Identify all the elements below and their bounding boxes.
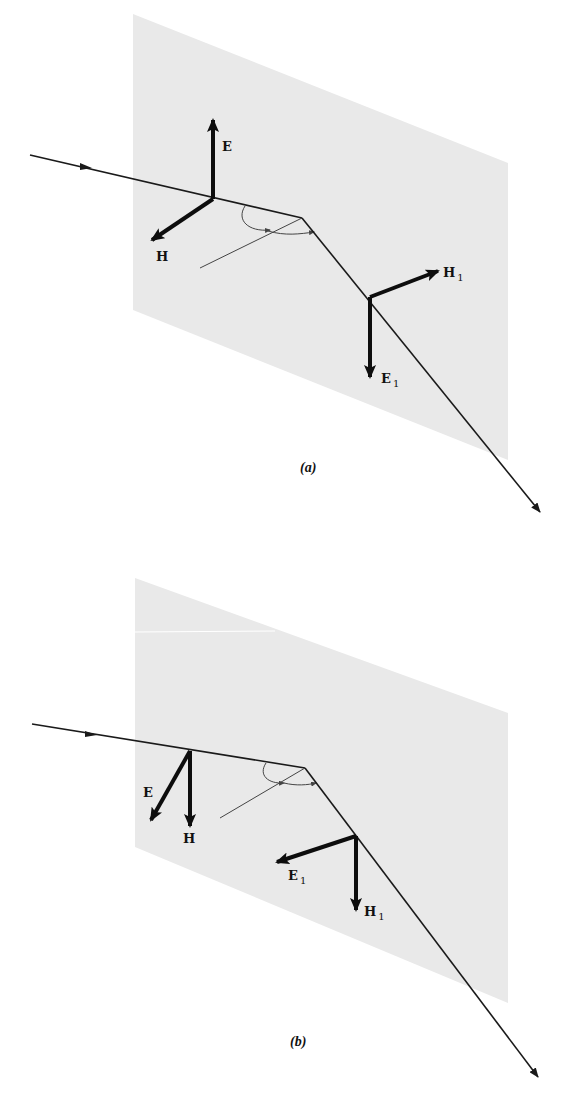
panel-b: E H E1 H1 (b) xyxy=(32,578,538,1077)
e-label: E xyxy=(222,139,232,154)
h-label: H xyxy=(156,249,168,264)
caption-b: (b) xyxy=(290,1034,306,1050)
e-label: E xyxy=(143,785,153,800)
h-label: H xyxy=(183,831,195,846)
caption-a: (a) xyxy=(300,460,316,476)
panel-a: E H H1 E1 (a) xyxy=(30,14,540,512)
plane-of-incidence xyxy=(133,14,508,460)
figure-canvas: E H H1 E1 (a) E H xyxy=(0,0,563,1101)
